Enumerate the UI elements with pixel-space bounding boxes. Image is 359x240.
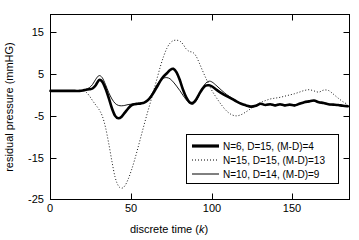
x-axis-title-close: ) bbox=[204, 223, 208, 235]
y-tick-label: 15 bbox=[32, 26, 44, 38]
y-tick-label: -5 bbox=[34, 110, 44, 122]
legend-label-n10: N=10, D=14, (M-D)=9 bbox=[223, 169, 320, 180]
x-axis-title-main: discrete time ( bbox=[130, 223, 199, 235]
x-tick-label: 0 bbox=[47, 202, 53, 214]
legend-label-n15: N=15, D=15, (M-D)=13 bbox=[223, 155, 325, 166]
legend-label-n6: N=6, D=15, (M-D)=4 bbox=[223, 141, 314, 152]
y-axis-tick-labels: 15 5 -5 -15 -25 bbox=[28, 26, 44, 205]
x-axis-title: discrete time (k) bbox=[130, 223, 208, 235]
y-tick-label: -25 bbox=[28, 193, 44, 205]
x-tick-label: 150 bbox=[283, 202, 301, 214]
y-axis-title: residual pressure (mmHG) bbox=[3, 42, 15, 172]
y-tick-label: 5 bbox=[38, 68, 44, 80]
residual-pressure-line-chart: 15 5 -5 -15 -25 0 50 100 150 discrete ti… bbox=[0, 0, 359, 240]
chart-legend: N=6, D=15, (M-D)=4 N=15, D=15, (M-D)=13 … bbox=[187, 135, 339, 184]
series-line-n6 bbox=[51, 69, 348, 119]
x-tick-label: 50 bbox=[125, 202, 137, 214]
chart-figure: 15 5 -5 -15 -25 0 50 100 150 discrete ti… bbox=[0, 0, 359, 240]
x-axis-tick-labels: 0 50 100 150 bbox=[47, 202, 301, 214]
x-tick-label: 100 bbox=[203, 202, 221, 214]
y-tick-label: -15 bbox=[28, 152, 44, 164]
